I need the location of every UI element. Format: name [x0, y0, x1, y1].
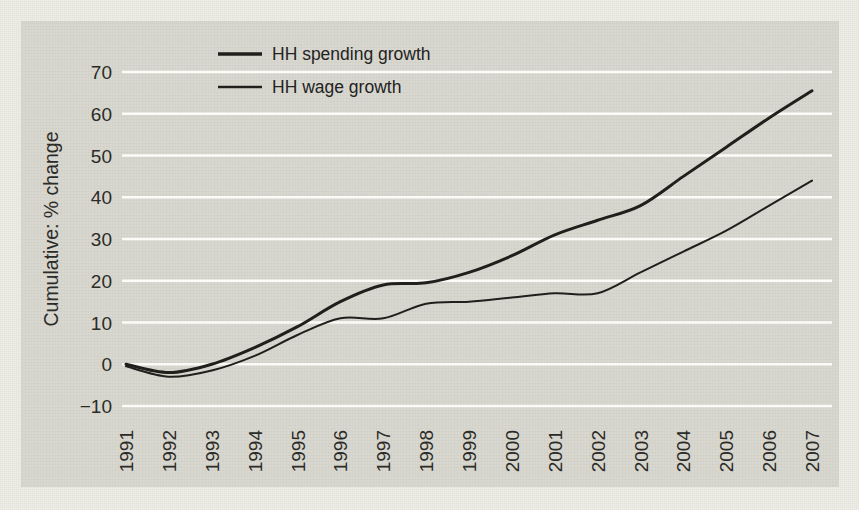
y-axis-tick-label: 50: [91, 146, 112, 167]
x-axis-tick-label: 1997: [373, 430, 394, 472]
y-axis-tick-label: 70: [91, 62, 112, 83]
x-axis-tick-label: 1994: [245, 430, 266, 473]
x-axis-tick-label: 2004: [673, 430, 694, 473]
x-axis-tick-label: 1996: [330, 430, 351, 472]
y-axis-tick-label: 30: [91, 229, 112, 250]
y-axis-tick-label: 40: [91, 187, 112, 208]
y-axis-tick-label: 0: [101, 354, 112, 375]
y-axis-tick-label: −10: [80, 396, 112, 417]
x-axis-tick-label: 2007: [802, 430, 823, 472]
series-line-spending: [126, 91, 812, 373]
x-axis-tick-label: 2003: [631, 430, 652, 472]
x-axis-tick-label: 2005: [716, 430, 737, 472]
x-axis-tick-label: 2001: [545, 430, 566, 472]
y-axis-tick-label: 20: [91, 271, 112, 292]
y-axis-title: Cumulative: % change: [40, 131, 62, 326]
x-axis-tick-label: 2002: [588, 430, 609, 472]
x-axis-tick-label: 1999: [459, 430, 480, 472]
x-axis-tick-label: 1993: [202, 430, 223, 472]
chart-plot-frame: −10010203040506070Cumulative: % change19…: [22, 22, 838, 486]
legend-label-spending: HH spending growth: [272, 44, 431, 64]
x-axis-tick-label: 1991: [116, 430, 137, 472]
y-axis-tick-label: 60: [91, 104, 112, 125]
y-axis-tick-label: 10: [91, 313, 112, 334]
x-axis-tick-label: 1998: [416, 430, 437, 472]
legend-label-wage: HH wage growth: [272, 77, 401, 97]
x-axis-tick-label: 2006: [759, 430, 780, 472]
x-axis-tick-label: 1995: [288, 430, 309, 472]
x-axis-tick-label: 1992: [159, 430, 180, 472]
series-line-wage: [126, 181, 812, 377]
x-axis-tick-label: 2000: [502, 430, 523, 472]
line-chart: −10010203040506070Cumulative: % change19…: [22, 22, 838, 486]
